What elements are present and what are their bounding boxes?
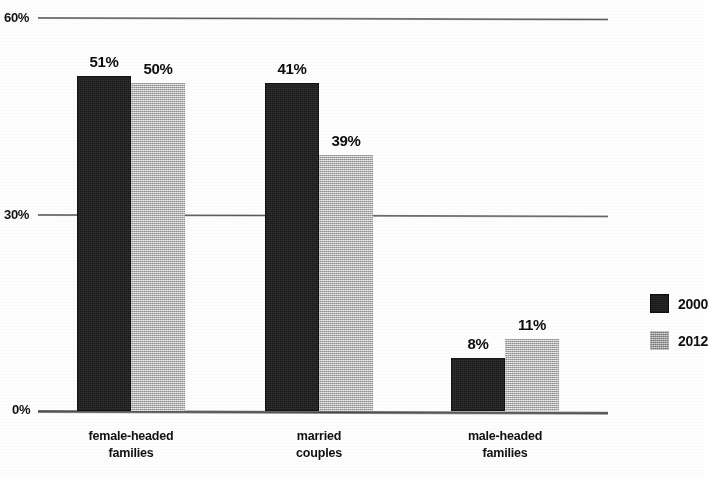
bar-value-label-2000-male-headed-families: 8% <box>451 336 505 351</box>
y-axis-tick-60: 60% <box>4 11 56 24</box>
dark-swatch-icon <box>650 294 669 313</box>
bar-2012-married-couples <box>319 155 373 411</box>
bar-2012-female-headed-families <box>131 83 185 411</box>
category-label-married-couples: married couples <box>233 428 405 462</box>
legend-label-2012: 2012 <box>678 332 708 351</box>
bar-value-label-2012-male-headed-families: 11% <box>505 317 559 332</box>
bar-2000-female-headed-families <box>77 76 131 411</box>
bar-value-label-2000-female-headed-families: 51% <box>77 54 131 69</box>
bar-2012-male-headed-families <box>505 339 559 411</box>
y-axis-tick-0: 0% <box>12 403 56 416</box>
bar-2000-male-headed-families <box>451 358 505 411</box>
bar-value-label-2012-married-couples: 39% <box>319 133 373 148</box>
legend-label-2000: 2000 <box>678 295 708 314</box>
y-axis-tick-30: 30% <box>4 208 56 221</box>
category-label-male-headed-families: male-headed families <box>419 428 591 462</box>
light-swatch-icon <box>650 331 669 350</box>
bar-value-label-2012-female-headed-families: 50% <box>131 61 185 76</box>
bar-2000-married-couples <box>265 83 319 411</box>
category-label-female-headed-families: female-headed families <box>45 428 217 462</box>
gridline-60 <box>38 17 608 21</box>
bar-value-label-2000-married-couples: 41% <box>265 61 319 76</box>
